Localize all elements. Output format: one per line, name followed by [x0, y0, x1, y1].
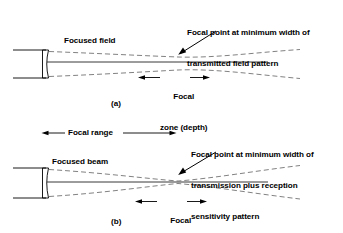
panel-a-focal-zone-line-1: Focal — [160, 92, 208, 102]
panel-a-lens-element — [47, 50, 49, 78]
panel-a-transducer-label: Focused field — [64, 36, 116, 46]
panel-b-transducer-label: Focused beam — [52, 157, 108, 167]
panel-b-callout-note-line-1: Focal point at minimum width of — [191, 150, 314, 160]
panel-b-callout-note: Focal point at minimum width of transmis… — [191, 130, 314, 233]
panel-b-lens-element — [47, 168, 49, 198]
panel-b-letter: (b) — [111, 217, 121, 226]
panel-b-focal-range-label: Focal range — [68, 128, 113, 138]
panel-a-callout-note-line-1: Focal point at minimum width of — [187, 28, 310, 38]
panel-b-focal-zone-line-1: Focal — [157, 216, 205, 226]
panel-b-callout-note-line-2: transmission plus reception — [191, 181, 314, 191]
panel-a-callout-note-line-2: transmitted field pattern — [187, 59, 310, 69]
panel-b-callout-note-line-3: sensitivity pattern — [191, 212, 314, 222]
panel-b-focal-zone-label: Focal zone (depth) — [157, 196, 205, 233]
panel-a-letter: (a) — [111, 99, 121, 108]
figure-root: Focal point at minimum width of transmit… — [0, 0, 343, 233]
